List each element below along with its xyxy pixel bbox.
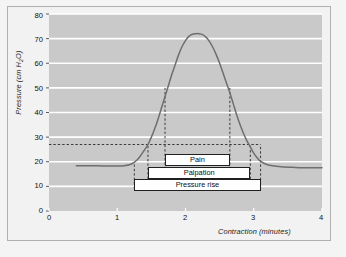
annotation-box-pain: Pain bbox=[165, 154, 230, 166]
y-tick-label-30: 30 bbox=[27, 133, 43, 142]
y-axis-tick-marks bbox=[46, 14, 49, 211]
y-axis-title: Pressure (cm H2O) bbox=[14, 46, 23, 120]
y-tick-label-60: 60 bbox=[27, 59, 43, 68]
y-tick-label-20: 20 bbox=[27, 157, 43, 166]
y-tick-label-10: 10 bbox=[27, 181, 43, 190]
y-tick-label-80: 80 bbox=[27, 11, 43, 20]
y-axis-title-suffix: O) bbox=[14, 50, 23, 58]
x-axis-title: Contraction (minutes) bbox=[218, 227, 291, 236]
y-tick-label-50: 50 bbox=[27, 84, 43, 93]
y-tick-label-0: 0 bbox=[27, 206, 43, 215]
x-tick-label-3: 3 bbox=[246, 213, 260, 222]
annotation-box-pressure-rise: Pressure rise bbox=[134, 179, 260, 191]
y-axis-title-prefix: Pressure (cm H bbox=[14, 62, 23, 115]
y-axis-title-subscript: 2 bbox=[18, 59, 24, 62]
annotation-box-palpation: Palpation bbox=[148, 167, 250, 179]
figure-container: Pressure (cm H2O) Contraction (minutes) … bbox=[0, 0, 346, 257]
x-tick-label-0: 0 bbox=[42, 213, 56, 222]
y-tick-label-40: 40 bbox=[27, 108, 43, 117]
x-tick-label-2: 2 bbox=[178, 213, 192, 222]
x-tick-label-1: 1 bbox=[110, 213, 124, 222]
y-tick-label-70: 70 bbox=[27, 35, 43, 44]
x-tick-label-4: 4 bbox=[314, 213, 328, 222]
